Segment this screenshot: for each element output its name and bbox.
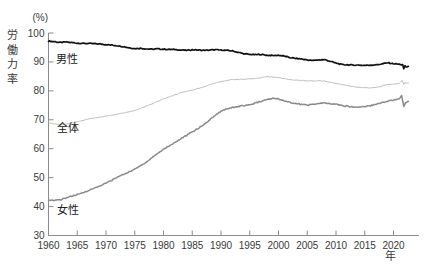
x-tick-label: 2005: [296, 240, 319, 251]
y-axis-title-char: 働: [7, 44, 18, 56]
series-label-male: 男性: [56, 52, 78, 65]
x-tick-label: 2000: [267, 240, 290, 251]
y-tick-label: 70: [33, 114, 45, 125]
x-tick-label: 1985: [181, 240, 204, 251]
x-tick-label: 1960: [37, 240, 60, 251]
y-tick-label: 80: [33, 85, 45, 96]
x-tick-label: 1980: [152, 240, 175, 251]
x-tick-label: 1965: [66, 240, 89, 251]
x-axis-title: 年: [385, 249, 396, 262]
chart-canvas: 3040506070809010019601965197019751980198…: [0, 0, 431, 277]
x-tick-label: 2015: [354, 240, 377, 251]
x-tick-label: 1975: [124, 240, 147, 251]
y-axis-title: 労働力率: [7, 28, 18, 85]
y-tick-label: 90: [33, 56, 45, 67]
axis-lines: [49, 33, 420, 236]
y-tick-label: 100: [28, 28, 45, 39]
labor-force-participation-chart: 3040506070809010019601965197019751980198…: [0, 0, 431, 277]
x-tick-label: 1970: [95, 240, 118, 251]
series-label-total: 全体: [57, 121, 79, 134]
x-tick-label: 1995: [239, 240, 262, 251]
line-total: [49, 76, 409, 124]
line-female: [49, 96, 409, 201]
series-lines: [49, 41, 409, 201]
axis-tick-labels: 3040506070809010019601965197019751980198…: [28, 28, 405, 251]
x-tick-label: 2010: [325, 240, 348, 251]
y-axis-title-char: 労: [7, 28, 18, 41]
x-tick-label: 1990: [210, 240, 233, 251]
y-axis-unit-label: (%): [32, 12, 48, 23]
series-label-female: 女性: [57, 203, 79, 216]
y-axis-title-char: 率: [7, 72, 18, 85]
x-tick-label: 2020: [382, 240, 405, 251]
line-male: [49, 41, 409, 69]
y-tick-label: 50: [33, 172, 45, 183]
y-tick-label: 40: [33, 201, 45, 212]
y-axis-title-char: 力: [7, 58, 18, 70]
y-tick-label: 60: [33, 143, 45, 154]
